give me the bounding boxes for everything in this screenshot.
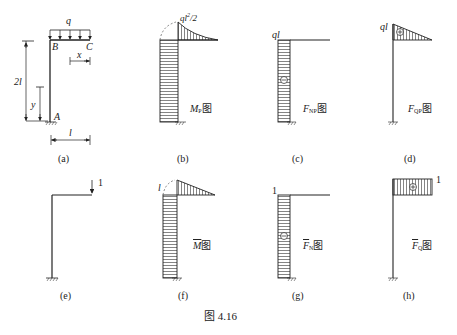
dim-l-label: l <box>69 128 72 138</box>
caption-b: (b) <box>177 154 189 164</box>
moment-value-label: ql2/2 <box>180 12 197 23</box>
load-q-label: q <box>66 16 71 26</box>
caption-h: (h) <box>403 291 415 301</box>
figure-caption: 图 4.16 <box>204 311 237 322</box>
unit-load-label: 1 <box>98 178 103 188</box>
dim-x-label: x <box>77 50 81 60</box>
caption-d: (d) <box>404 154 416 164</box>
dim-2l-label: 2l <box>14 77 22 87</box>
fqp-diagram-title: FQP图 <box>408 104 432 114</box>
caption-a: (a) <box>58 154 69 164</box>
point-a-label: A <box>54 112 60 122</box>
mp-diagram-title: MP图 <box>190 104 212 114</box>
unit-shear-value-label: 1 <box>436 175 441 185</box>
axial-value-label: ql <box>272 30 280 40</box>
caption-e: (e) <box>60 291 71 301</box>
caption-g: (g) <box>292 291 304 301</box>
caption-c: (c) <box>292 154 303 164</box>
shear-value-label: ql <box>380 22 388 32</box>
point-b-label: B <box>52 42 58 52</box>
fq-bar-diagram-title: FQ图 <box>412 241 432 251</box>
unit-moment-value-label: l <box>158 183 161 193</box>
point-c-label: C <box>86 42 93 52</box>
figure-canvas <box>0 0 457 335</box>
panel-e-unit-load-structure <box>46 180 92 281</box>
dim-y-label: y <box>31 100 35 110</box>
fn-bar-diagram-title: FN图 <box>303 241 323 251</box>
fnp-diagram-title: FNP图 <box>303 104 327 114</box>
panel-g-unit-axial-diagram <box>278 195 330 281</box>
m-bar-diagram-title: M图 <box>193 241 211 251</box>
unit-axial-value-label: 1 <box>272 186 277 196</box>
panel-h-unit-shear-diagram <box>388 179 432 281</box>
caption-f: (f) <box>178 291 188 301</box>
panel-f-unit-moment-diagram <box>163 180 215 281</box>
